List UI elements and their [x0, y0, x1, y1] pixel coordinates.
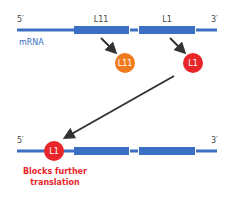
gene-label-l11: L11 [94, 15, 109, 24]
bound-protein-label: L1 [49, 147, 59, 156]
gene-label-l1: L1 [162, 15, 172, 24]
gene-block-l11 [74, 26, 129, 34]
protein-l1: L1 [183, 53, 203, 73]
caption-line-2: translation [30, 178, 80, 187]
top-mrna-strand [17, 26, 217, 34]
caption-line-1: Blocks further [23, 167, 87, 176]
protein-l1-label: L1 [188, 59, 198, 68]
gene-block-l11-bottom [74, 147, 129, 155]
three-prime-label-top: 3′ [211, 15, 218, 24]
five-prime-label-bottom: 5′ [17, 136, 24, 145]
feedback-arrow [68, 76, 174, 136]
bound-protein-l1: L1 [44, 141, 64, 161]
three-prime-label-bottom: 3′ [211, 136, 218, 145]
five-prime-label-top: 5′ [17, 15, 24, 24]
translation-arrow-l11 [101, 38, 113, 50]
diagram-canvas: 5′ L11 L1 3′ mRNA L11 L1 5′ 3′ L1 Blocks… [0, 0, 230, 197]
protein-l11-label: L11 [118, 59, 133, 68]
mrna-label: mRNA [19, 38, 44, 47]
translation-arrow-l1 [170, 38, 182, 50]
protein-l11: L11 [115, 53, 135, 73]
gene-block-l1-bottom [139, 147, 195, 155]
gene-block-l1 [139, 26, 195, 34]
